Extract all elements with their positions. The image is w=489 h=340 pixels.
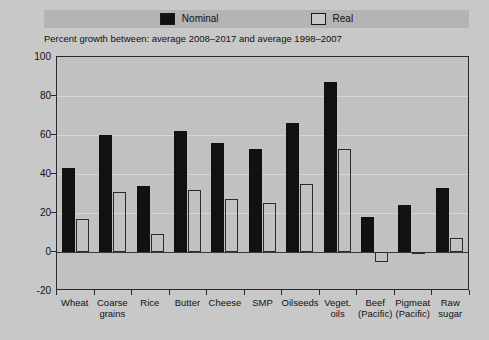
x-axis-label: Coarsegrains (94, 297, 132, 319)
bar-real-cheese (225, 199, 238, 252)
x-axis-label-line: Beef (356, 297, 394, 308)
bar-group (431, 57, 468, 289)
x-axis-label-line: Butter (169, 297, 207, 308)
x-axis-label: Beef(Pacific) (356, 297, 394, 319)
x-tick-mark (356, 290, 357, 295)
chart-subtitle: Percent growth between: average 2008–201… (44, 33, 342, 44)
x-axis-label-line: sugar (431, 308, 469, 319)
legend-entry-nominal: Nominal (160, 13, 219, 25)
bar-nominal-beef-pacific (361, 217, 374, 252)
x-tick-mark (394, 290, 395, 295)
x-axis-label: Cheese (206, 297, 244, 319)
bar-nominal-raw-sugar (436, 188, 449, 252)
y-tick-mark (51, 134, 56, 135)
bar-group (94, 57, 131, 289)
x-tick-mark (469, 290, 470, 295)
bar-real-smp (263, 203, 276, 252)
x-tick-mark (206, 290, 207, 295)
legend-entry-real: Real (311, 13, 354, 25)
bar-real-beef-pacific (375, 252, 388, 262)
x-axis-label-line: Wheat (56, 297, 94, 308)
bar-groups (57, 57, 468, 289)
y-tick-mark (51, 251, 56, 252)
x-axis-label: Wheat (56, 297, 94, 319)
bar-real-pigmeat-pacific (412, 252, 425, 254)
x-tick-mark (169, 290, 170, 295)
bar-group (319, 57, 356, 289)
bar-nominal-cheese (211, 143, 224, 252)
legend-label-real: Real (333, 14, 354, 24)
bar-nominal-butter (174, 131, 187, 252)
x-axis-label: Butter (169, 297, 207, 319)
bar-nominal-veget-oils (324, 82, 337, 252)
bar-group (393, 57, 430, 289)
plot-area (56, 56, 469, 290)
bar-group (57, 57, 94, 289)
x-axis-labels: WheatCoarsegrainsRiceButterCheeseSMPOils… (56, 297, 469, 319)
x-axis-label-line: oils (319, 308, 357, 319)
x-axis-label-line: grains (94, 308, 132, 319)
bar-real-wheat (76, 219, 89, 252)
x-axis-label: Oilseeds (281, 297, 319, 319)
x-tick-mark (281, 290, 282, 295)
bar-nominal-pigmeat-pacific (398, 205, 411, 252)
x-tick-mark (131, 290, 132, 295)
x-tick-mark (94, 290, 95, 295)
x-axis-label: Rice (131, 297, 169, 319)
bar-group (356, 57, 393, 289)
bar-real-oilseeds (300, 184, 313, 252)
y-tick-label: 80 (11, 90, 51, 101)
x-tick-mark (431, 290, 432, 295)
bar-real-veget-oils (338, 149, 351, 252)
x-axis-label: Veget.oils (319, 297, 357, 319)
bar-nominal-smp (249, 149, 262, 252)
x-axis-label: SMP (244, 297, 282, 319)
x-axis-label: Rawsugar (431, 297, 469, 319)
y-tick-label: 20 (11, 207, 51, 218)
x-tick-mark (56, 290, 57, 295)
bar-real-rice (151, 234, 164, 252)
x-tick-mark (319, 290, 320, 295)
bar-group (206, 57, 243, 289)
y-tick-mark (51, 212, 56, 213)
bar-group (281, 57, 318, 289)
x-axis-label-line: (Pacific) (394, 308, 432, 319)
x-axis-label-line: Raw (431, 297, 469, 308)
y-tick-label: 40 (11, 168, 51, 179)
chart-figure: Nominal Real Percent growth between: ave… (0, 0, 489, 340)
bar-nominal-coarse-grains (99, 135, 112, 252)
x-axis-label-line: Coarse (94, 297, 132, 308)
y-tick-mark (51, 173, 56, 174)
bar-group (169, 57, 206, 289)
x-axis-label-line: Oilseeds (281, 297, 319, 308)
bar-real-raw-sugar (450, 238, 463, 252)
legend-swatch-real-icon (311, 13, 326, 25)
bar-group (244, 57, 281, 289)
x-axis-label-line: (Pacific) (356, 308, 394, 319)
x-axis-label-line: Cheese (206, 297, 244, 308)
legend-swatch-nominal-icon (160, 13, 175, 25)
bar-group (132, 57, 169, 289)
y-tick-label: 0 (11, 246, 51, 257)
y-tick-label: -20 (11, 285, 51, 296)
y-tick-mark (51, 95, 56, 96)
bar-nominal-oilseeds (286, 123, 299, 252)
x-axis-ticks (56, 290, 469, 296)
x-axis-label-line: SMP (244, 297, 282, 308)
y-tick-label: 100 (11, 51, 51, 62)
x-axis-label-line: Rice (131, 297, 169, 308)
bar-real-coarse-grains (113, 192, 126, 252)
x-axis-label-line: Veget. (319, 297, 357, 308)
bar-real-butter (188, 190, 201, 252)
y-tick-label: 60 (11, 129, 51, 140)
chart-legend: Nominal Real (44, 10, 469, 28)
x-axis-label: Pigmeat(Pacific) (394, 297, 432, 319)
x-tick-mark (244, 290, 245, 295)
x-axis-label-line: Pigmeat (394, 297, 432, 308)
bar-nominal-rice (137, 186, 150, 252)
bar-nominal-wheat (62, 168, 75, 252)
legend-label-nominal: Nominal (182, 14, 219, 24)
